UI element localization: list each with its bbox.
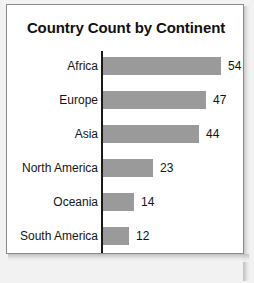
bar-track: 12 xyxy=(103,227,149,245)
category-label: North America xyxy=(22,161,98,175)
bar[interactable] xyxy=(103,57,221,75)
bar-row: South America12 xyxy=(7,219,244,253)
bar-value-label: 12 xyxy=(136,229,149,243)
chart-title: Country Count by Continent xyxy=(7,19,244,36)
bar-row: Europe47 xyxy=(7,83,244,117)
bar[interactable] xyxy=(103,159,153,177)
bar-value-label: 44 xyxy=(206,127,219,141)
bar-row: Africa54 xyxy=(7,49,244,83)
bar-rows: Africa54Europe47Asia44North America23Oce… xyxy=(7,49,244,253)
category-label: Africa xyxy=(67,59,98,73)
category-label: South America xyxy=(20,229,98,243)
plot-area: Africa54Europe47Asia44North America23Oce… xyxy=(7,49,244,254)
bar-track: 14 xyxy=(103,193,154,211)
bar-row: Asia44 xyxy=(7,117,244,151)
bar-track: 47 xyxy=(103,91,226,109)
bar-value-label: 47 xyxy=(213,93,226,107)
chart-frame: Country Count by Continent Africa54Europ… xyxy=(6,4,244,254)
bar-track: 23 xyxy=(103,159,173,177)
frame-shadow-right xyxy=(243,6,251,281)
bar-row: Oceania14 xyxy=(7,185,244,219)
category-label: Europe xyxy=(59,93,98,107)
frame-shadow-bottom xyxy=(8,254,249,262)
bar-value-label: 23 xyxy=(160,161,173,175)
bar-track: 54 xyxy=(103,57,241,75)
category-label: Oceania xyxy=(53,195,98,209)
bar-value-label: 54 xyxy=(228,59,241,73)
chart-screenshot: Country Count by Continent Africa54Europ… xyxy=(0,0,254,283)
category-label: Asia xyxy=(75,127,98,141)
bar[interactable] xyxy=(103,125,199,143)
bar[interactable] xyxy=(103,193,134,211)
bar[interactable] xyxy=(103,227,129,245)
bar-value-label: 14 xyxy=(141,195,154,209)
bar-track: 44 xyxy=(103,125,219,143)
bar[interactable] xyxy=(103,91,206,109)
bar-row: North America23 xyxy=(7,151,244,185)
